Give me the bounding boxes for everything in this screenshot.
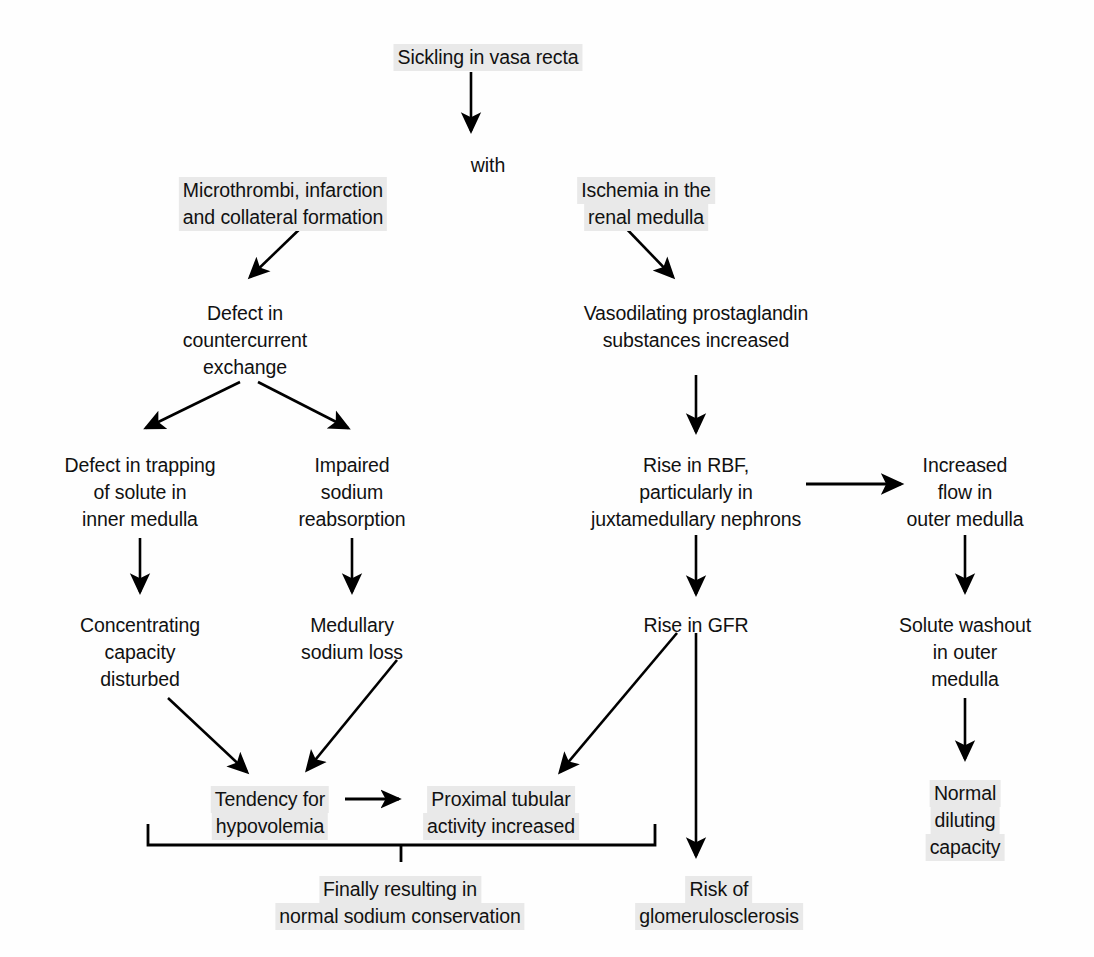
flowchart-node-risk_gs: Risk ofglomerulosclerosis <box>635 876 803 930</box>
edge-concentrating-to-tendency-hypo <box>168 698 247 772</box>
flowchart-node-text: reabsorption <box>294 506 409 533</box>
flowchart-node-text: Proximal tubular <box>427 786 574 813</box>
edge-rise-gfr-to-proximal-tub <box>560 633 677 772</box>
flowchart-node-normal_diluting: Normaldilutingcapacity <box>926 780 1005 861</box>
flowchart-node-medullary_loss: Medullarysodium loss <box>297 612 407 666</box>
flowchart-node-text: substances increased <box>599 327 794 354</box>
flowchart-node-text: and collateral formation <box>179 204 387 231</box>
flowchart-node-text: Rise in GFR <box>639 612 752 639</box>
flowchart-node-text: capacity <box>101 639 180 666</box>
edge-medullary-loss-to-tendency-hypo <box>307 660 397 770</box>
flowchart-node-text: with <box>467 152 509 179</box>
flowchart-node-defect_trap: Defect in trappingof solute ininner medu… <box>60 452 219 533</box>
flowchart-node-line: Impaired <box>294 452 409 479</box>
flowchart-node-text: renal medulla <box>584 204 708 231</box>
flowchart-node-text: particularly in <box>635 479 756 506</box>
flowchart-node-line: Increased <box>903 452 1028 479</box>
flowchart-node-line: countercurrent <box>179 327 311 354</box>
flowchart-node-text: countercurrent <box>179 327 311 354</box>
flowchart-node-line: Microthrombi, infarction <box>179 177 387 204</box>
flowchart-node-line: hypovolemia <box>211 813 329 840</box>
flowchart-node-line: capacity <box>926 834 1005 861</box>
flowchart-node-text: normal sodium conservation <box>275 903 524 930</box>
flowchart-node-text: medulla <box>927 666 1003 693</box>
flowchart-node-rise_rbf: Rise in RBF,particularly injuxtamedullar… <box>587 452 805 533</box>
flowchart-node-text: Vasodilating prostaglandin <box>580 300 813 327</box>
flowchart-node-text: Concentrating <box>76 612 204 639</box>
flowchart-node-line: Solute washout <box>895 612 1035 639</box>
flowchart-node-text: flow in <box>934 479 997 506</box>
flowchart-node-line: juxtamedullary nephrons <box>587 506 805 533</box>
flowchart-node-line: with <box>467 152 509 179</box>
flowchart-node-text: Defect in <box>203 300 287 327</box>
flowchart-node-line: Defect in <box>179 300 311 327</box>
flowchart-node-text: of solute in <box>89 479 190 506</box>
flowchart-node-text: capacity <box>926 834 1005 861</box>
flowchart-node-line: Rise in RBF, <box>587 452 805 479</box>
flowchart-node-text: hypovolemia <box>212 813 328 840</box>
flowchart-node-line: and collateral formation <box>179 204 387 231</box>
flowchart-node-finally: Finally resulting innormal sodium conser… <box>275 876 524 930</box>
flowchart-node-line: diluting <box>926 807 1005 834</box>
flowchart-node-ischemia: Ischemia in therenal medulla <box>577 177 715 231</box>
flowchart-canvas: Sickling in vasa rectawithMicrothrombi, … <box>0 0 1094 957</box>
flowchart-node-text: in outer <box>929 639 1001 666</box>
flowchart-node-text: exchange <box>199 354 291 381</box>
edge-defect-cc-to-defect-trap <box>146 382 240 428</box>
flowchart-node-tendency_hypo: Tendency forhypovolemia <box>211 786 329 840</box>
flowchart-node-text: sodium loss <box>297 639 407 666</box>
flowchart-node-line: Medullary <box>297 612 407 639</box>
flowchart-node-text: Sickling in vasa recta <box>394 44 583 71</box>
flowchart-node-line: Concentrating <box>76 612 204 639</box>
flowchart-node-text: sodium <box>317 479 387 506</box>
edge-defect-cc-to-impaired-na <box>258 382 348 428</box>
flowchart-node-line: outer medulla <box>903 506 1028 533</box>
flowchart-node-text: Medullary <box>306 612 398 639</box>
flowchart-node-with: with <box>467 152 509 179</box>
flowchart-node-line: exchange <box>179 354 311 381</box>
flowchart-node-line: reabsorption <box>294 506 409 533</box>
flowchart-node-line: normal sodium conservation <box>275 903 524 930</box>
flowchart-node-text: disturbed <box>96 666 183 693</box>
flowchart-node-line: in outer <box>895 639 1035 666</box>
flowchart-node-text: Increased <box>919 452 1012 479</box>
flowchart-node-text: Microthrombi, infarction <box>179 177 387 204</box>
flowchart-node-impaired_na: Impairedsodiumreabsorption <box>294 452 409 533</box>
flowchart-node-line: Risk of <box>635 876 803 903</box>
flowchart-node-defect_cc: Defect incountercurrentexchange <box>179 300 311 381</box>
flowchart-node-line: Defect in trapping <box>60 452 219 479</box>
flowchart-node-line: substances increased <box>580 327 813 354</box>
flowchart-node-concentrating: Concentratingcapacitydisturbed <box>76 612 204 693</box>
flowchart-node-text: Ischemia in the <box>577 177 715 204</box>
flowchart-node-sickling: Sickling in vasa recta <box>394 44 583 71</box>
flowchart-node-line: Tendency for <box>211 786 329 813</box>
flowchart-node-line: renal medulla <box>577 204 715 231</box>
flowchart-node-text: Finally resulting in <box>319 876 481 903</box>
flowchart-node-line: Proximal tubular <box>423 786 579 813</box>
flowchart-node-line: sodium loss <box>297 639 407 666</box>
flowchart-node-line: Vasodilating prostaglandin <box>580 300 813 327</box>
flowchart-node-line: sodium <box>294 479 409 506</box>
flowchart-node-line: activity increased <box>423 813 579 840</box>
flowchart-node-line: medulla <box>895 666 1035 693</box>
flowchart-node-text: Solute washout <box>895 612 1035 639</box>
flowchart-node-proximal_tub: Proximal tubularactivity increased <box>423 786 579 840</box>
flowchart-node-text: activity increased <box>423 813 579 840</box>
flowchart-node-line: glomerulosclerosis <box>635 903 803 930</box>
flowchart-node-line: inner medulla <box>60 506 219 533</box>
flowchart-node-text: diluting <box>931 807 1000 834</box>
flowchart-node-text: outer medulla <box>903 506 1028 533</box>
flowchart-node-text: Impaired <box>310 452 393 479</box>
flowchart-node-text: Rise in RBF, <box>639 452 753 479</box>
flowchart-node-text: Defect in trapping <box>60 452 219 479</box>
flowchart-node-line: disturbed <box>76 666 204 693</box>
flowchart-node-text: Risk of <box>686 876 753 903</box>
flowchart-node-text: Normal <box>930 780 1000 807</box>
flowchart-node-line: Ischemia in the <box>577 177 715 204</box>
flowchart-node-line: Normal <box>926 780 1005 807</box>
flowchart-node-line: Rise in GFR <box>639 612 752 639</box>
flowchart-node-text: inner medulla <box>78 506 202 533</box>
flowchart-node-line: Sickling in vasa recta <box>394 44 583 71</box>
flowchart-node-line: particularly in <box>587 479 805 506</box>
flowchart-node-rise_gfr: Rise in GFR <box>639 612 752 639</box>
